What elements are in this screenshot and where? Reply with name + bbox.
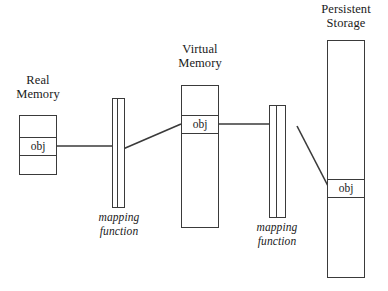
virtual-memory-obj-cell: obj (182, 115, 218, 134)
mapping-function-label-1: mapping function (86, 211, 152, 238)
mapping-function-bar-1-rule (117, 98, 118, 208)
persistent-storage-obj-label: obj (339, 183, 354, 195)
persistent-storage-title: Persistent Storage (305, 2, 387, 30)
real-memory-title: Real Memory (5, 73, 71, 101)
virtual-memory-block: obj (181, 85, 219, 228)
persistent-storage-obj-cell: obj (328, 179, 364, 198)
mapping-function-bar-2-rule (276, 105, 277, 218)
mapping-function-label-2: mapping function (244, 221, 310, 248)
virtual-memory-title: Virtual Memory (167, 42, 233, 70)
mapping-function-bar-1 (112, 98, 125, 208)
real-memory-block: obj (19, 115, 57, 175)
virtual-memory-obj-label: obj (193, 119, 208, 131)
persistent-storage-block: obj (327, 40, 365, 278)
wire-map1-to-virtual (123, 124, 181, 149)
mapping-function-bar-2 (269, 105, 286, 218)
real-memory-obj-cell: obj (20, 137, 56, 156)
wire-map2-to-persistent (297, 126, 328, 186)
real-memory-obj-label: obj (31, 141, 46, 153)
memory-mapping-diagram: Real Memory obj mapping function Virtual… (0, 0, 388, 291)
